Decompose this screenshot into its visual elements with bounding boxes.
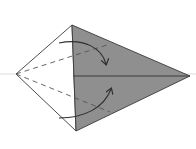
origami-diagram: [0, 0, 196, 149]
shaded-face-right: [72, 25, 190, 131]
fold-diagram-canvas: [0, 0, 196, 149]
